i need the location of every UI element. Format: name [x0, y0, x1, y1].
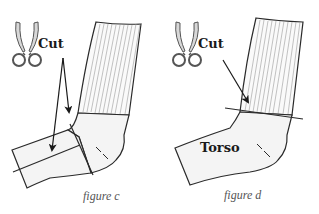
arrow-to-heel-cut: [63, 58, 69, 112]
cut-label: Cut: [198, 36, 224, 51]
figure-d-panel: Cut Torso figure d: [160, 0, 319, 214]
figure-c-panel: Cut figure c: [0, 0, 160, 214]
figure-caption: figure c: [83, 189, 120, 203]
figure-d-diagram: Cut Torso figure d: [160, 0, 319, 214]
figure-c-diagram: Cut figure c: [0, 0, 160, 214]
figure-caption: figure d: [224, 188, 262, 202]
cut-label: Cut: [38, 36, 64, 51]
sock-cuff: [240, 18, 303, 115]
torso-label: Torso: [200, 140, 240, 155]
scissors-icon: [13, 22, 41, 66]
scissors-icon: [173, 22, 201, 66]
sock-toe: [12, 130, 91, 188]
